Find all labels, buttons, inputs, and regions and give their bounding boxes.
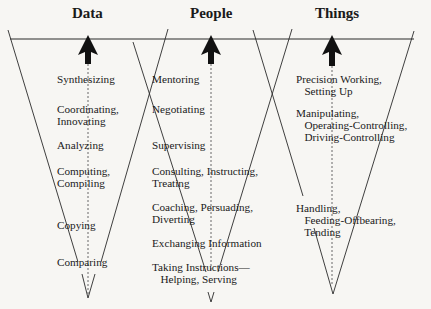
people-function-exchanging: Exchanging Information (152, 237, 262, 249)
data-function-coordinating: Coordinating, Innovating (57, 103, 119, 127)
people-function-negotiating: Negotiating (152, 103, 205, 115)
people-funnel-right (218, 29, 292, 272)
people-function-mentoring: Mentoring (152, 73, 199, 85)
data-function-synthesizing: Synthesizing (57, 73, 115, 85)
things-funnel-right (333, 31, 414, 294)
people-function-consulting: Consulting, Instructing, Treating (152, 165, 258, 189)
data-function-copying: Copying (57, 219, 96, 231)
data-function-analyzing: Analyzing (57, 139, 104, 151)
data-function-comparing: Comparing (57, 256, 107, 268)
people-function-coaching: Coaching, Persuading, Diverting (152, 201, 253, 225)
column-header-things: Things (315, 5, 359, 22)
data-funnel-tip (82, 274, 95, 298)
things-function-manipulating: Manipulating, Operating-Controlling, Dri… (296, 107, 407, 143)
things-up-arrow-icon (322, 35, 342, 66)
column-header-data: Data (72, 5, 103, 22)
people-function-supervising: Supervising (152, 139, 205, 151)
people-funnel-tip (208, 292, 214, 302)
data-function-computing: Computing, Compiling (57, 165, 110, 189)
things-function-precision-working: Precision Working, Setting Up (296, 73, 382, 97)
people-function-taking-instructions: Taking Instructions— Helping, Serving (152, 261, 250, 285)
column-header-people: People (190, 5, 233, 22)
things-function-handling: Handling, Feeding-Offbearing, Tending (296, 202, 396, 238)
